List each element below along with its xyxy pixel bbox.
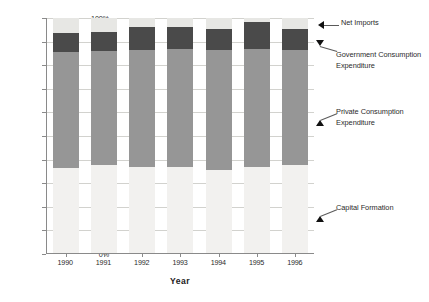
bar-segment — [167, 18, 193, 27]
bar-segment — [206, 170, 232, 253]
bar-segment — [91, 51, 117, 165]
bar-1992 — [129, 18, 155, 253]
bar-1990 — [53, 18, 79, 253]
x-axis-tick-mark — [66, 253, 67, 257]
x-axis-tick-mark — [142, 253, 143, 257]
x-axis-tick-mark — [180, 253, 181, 257]
x-axis-tick-label: 1993 — [167, 258, 193, 267]
annotation-government-consumption: Government Consumption Expenditure — [336, 50, 421, 71]
bar-1994 — [206, 18, 232, 253]
bar-segment — [282, 18, 308, 29]
bar-segment — [244, 167, 270, 253]
x-axis-tick-mark — [219, 253, 220, 257]
y-axis-tick-mark — [42, 254, 46, 255]
bar-series-group — [47, 18, 314, 253]
leader-net-imports — [324, 25, 339, 26]
x-axis-tick-label: 1994 — [205, 258, 231, 267]
bar-segment — [282, 50, 308, 165]
bar-segment — [91, 165, 117, 253]
x-axis-tick-label: 1992 — [129, 258, 155, 267]
bar-segment — [206, 18, 232, 29]
bar-segment — [91, 32, 117, 51]
bar-segment — [53, 18, 79, 33]
bar-1996 — [282, 18, 308, 253]
annotation-capital-formation: Capital Formation — [336, 203, 393, 214]
bar-1993 — [167, 18, 193, 253]
bar-segment — [167, 49, 193, 168]
bar-segment — [53, 33, 79, 52]
bar-segment — [129, 50, 155, 168]
bar-segment — [244, 49, 270, 168]
x-axis-title: Year — [46, 276, 314, 286]
x-axis-tick-label: 1990 — [52, 258, 78, 267]
bar-1995 — [244, 18, 270, 253]
leader-capital-formation — [320, 209, 337, 217]
x-axis-tick-label: 1995 — [244, 258, 270, 267]
leader-private-consumption — [320, 113, 337, 121]
bar-segment — [129, 167, 155, 253]
bar-segment — [167, 167, 193, 253]
bar-segment — [53, 52, 79, 168]
bar-segment — [282, 29, 308, 50]
bar-segment — [206, 29, 232, 50]
x-axis-tick-labels: 1990199119921993199419951996 — [46, 258, 314, 270]
bar-1991 — [91, 18, 117, 253]
bar-segment — [129, 18, 155, 27]
x-axis-tick-label: 1996 — [282, 258, 308, 267]
annotation-net-imports: Net Imports — [341, 18, 379, 29]
bar-segment — [167, 27, 193, 48]
x-axis-tick-mark — [104, 253, 105, 257]
plot-area — [46, 18, 314, 254]
bar-segment — [206, 50, 232, 170]
bar-segment — [244, 22, 270, 49]
bar-segment — [282, 165, 308, 253]
x-axis-tick-mark — [295, 253, 296, 257]
x-axis-tick-mark — [257, 253, 258, 257]
x-axis-tick-label: 1991 — [90, 258, 116, 267]
chart-figure: 100%90%80%70%60%50%40%30%20%10%0% 199019… — [0, 0, 429, 302]
bar-segment — [91, 18, 117, 32]
leader-government-consumption — [320, 46, 338, 52]
bar-segment — [53, 168, 79, 253]
bar-segment — [129, 27, 155, 49]
annotation-private-consumption: Private Consumption Expenditure — [336, 107, 404, 128]
